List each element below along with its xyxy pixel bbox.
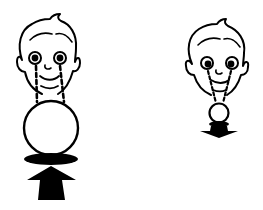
left-mouth-icon	[40, 76, 59, 80]
illustration	[0, 0, 263, 210]
right-sightline-1	[208, 71, 216, 103]
right-sightline-2	[223, 71, 231, 103]
left-face-figure	[17, 14, 80, 155]
left-up-arrow-icon	[27, 166, 76, 200]
left-ball-shadow	[24, 153, 78, 165]
left-sightline-1	[36, 66, 37, 102]
right-face-figure	[186, 19, 248, 123]
left-large-ball-icon	[24, 101, 78, 155]
left-sightline-2	[60, 66, 64, 102]
right-down-arrow-icon	[200, 126, 238, 138]
right-mouth-icon	[211, 80, 229, 83]
right-head-outline-icon	[186, 19, 248, 95]
left-head-outline-icon	[17, 14, 80, 94]
right-small-ball-icon	[210, 104, 229, 123]
